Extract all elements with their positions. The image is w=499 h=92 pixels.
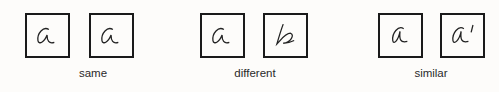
cursive-a-icon — [91, 15, 132, 56]
cursive-b-icon — [265, 15, 306, 56]
label-different: different — [205, 67, 305, 79]
glyph-box-same-2 — [89, 13, 134, 58]
glyph-box-similar-2 — [440, 13, 485, 58]
glyph-box-different-1 — [200, 13, 245, 58]
glyph-box-different-2 — [263, 13, 308, 58]
cursive-a-icon — [202, 15, 243, 56]
label-similar: similar — [381, 67, 481, 79]
glyph-box-same-1 — [25, 13, 70, 58]
cursive-a-prime-icon — [442, 15, 483, 56]
cursive-a-icon — [27, 15, 68, 56]
label-same: same — [43, 67, 143, 79]
glyph-box-similar-1 — [378, 13, 423, 58]
cursive-a-icon — [380, 15, 421, 56]
